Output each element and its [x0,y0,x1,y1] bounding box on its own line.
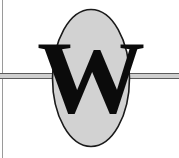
ellipse-badge [51,8,131,148]
logo-canvas: W [0,0,179,158]
badge-ellipse [53,10,130,147]
